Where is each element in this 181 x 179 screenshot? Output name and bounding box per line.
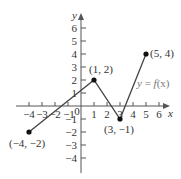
x-tick-label: −4 [23,108,35,120]
point-label: (−4, −2) [9,137,46,150]
y-tick-label: 5 [72,35,78,47]
x-axis-label: x [167,107,173,119]
y-axis: 6 5 4 3 2 1 −1 −2 −3 −4 y 0 [65,9,86,173]
point-label: (5, 4) [150,47,174,60]
y-tick-label: 6 [72,22,78,34]
y-tick-label: −4 [65,152,77,164]
function-annotation: y = f(x) [136,77,170,90]
y-tick-label: 4 [72,48,78,60]
point-label: (1, 2) [89,63,113,76]
origin-label: 0 [74,105,80,117]
y-tick-label: −2 [65,126,77,138]
point-label: (3, −1) [104,123,134,136]
y-tick-label: 2 [72,74,78,86]
x-tick-label: 2 [104,108,110,120]
y-tick-label: −3 [65,139,77,151]
y-axis-label: y [71,9,77,21]
function-graph: −4 −3 −2 −1 1 2 3 4 5 6 x 6 5 4 3 2 [0,0,181,179]
x-tick-label: 5 [143,108,149,120]
y-axis-arrow-icon [78,13,84,20]
function-line [29,54,146,132]
point-marker [91,77,96,82]
x-tick-label: 4 [130,108,136,120]
x-tick-label: 1 [91,108,97,120]
point-marker [117,116,122,121]
x-tick-label: 6 [156,108,162,120]
point-marker [26,129,31,134]
y-tick-label: 3 [72,61,78,73]
point-marker [143,51,148,56]
x-axis: −4 −3 −2 −1 1 2 3 4 5 6 x [16,102,173,120]
